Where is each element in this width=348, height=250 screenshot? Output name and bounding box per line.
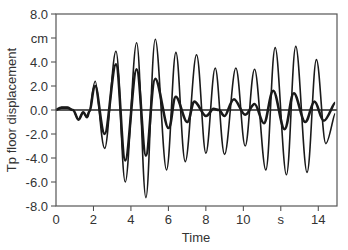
y-tick-label: -8.0 (26, 199, 48, 214)
y-tick-label: -4.0 (26, 151, 48, 166)
x-tick-label: s (278, 212, 285, 227)
y-tick-label: cm (31, 31, 48, 46)
x-tick-label: 0 (52, 212, 59, 227)
y-tick-label: 8.0 (30, 7, 48, 22)
x-axis-label: Time (182, 230, 210, 245)
x-tick-label: 6 (165, 212, 172, 227)
y-axis-label: Tp floor displacement (4, 47, 19, 172)
displacement-chart: 8.0cm4.02.00.0-2.0-4.0-6.0-8.0 0246810s1… (0, 0, 348, 250)
y-tick-label: 4.0 (30, 55, 48, 70)
series-lines (56, 39, 335, 197)
x-axis-ticks: 0246810s14 (52, 206, 325, 227)
y-tick-label: -2.0 (26, 127, 48, 142)
x-tick-label: 4 (127, 212, 134, 227)
x-tick-label: 14 (311, 212, 325, 227)
y-axis-ticks: 8.0cm4.02.00.0-2.0-4.0-6.0-8.0 (26, 7, 56, 214)
y-tick-label: -6.0 (26, 175, 48, 190)
series-line-thin (56, 39, 335, 197)
y-tick-label: 0.0 (30, 103, 48, 118)
x-tick-label: 2 (90, 212, 97, 227)
x-tick-label: 10 (236, 212, 250, 227)
y-tick-label: 2.0 (30, 79, 48, 94)
x-tick-label: 8 (202, 212, 209, 227)
